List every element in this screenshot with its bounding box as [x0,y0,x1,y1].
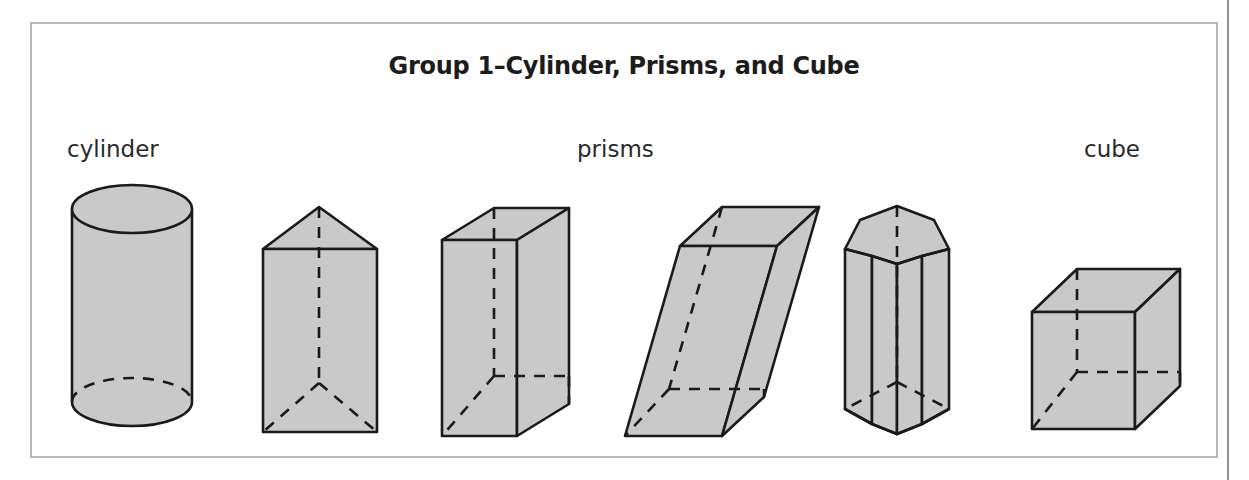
shape-triangular-prism [263,207,377,432]
page-edge-rule [1227,0,1229,480]
shape-cylinder [72,185,192,426]
shape-rectangular-prism [442,208,569,436]
shape-pentagonal-prism [845,206,949,434]
figure-frame: Group 1–Cylinder, Prisms, and Cube cylin… [30,22,1218,458]
figure-page: Group 1–Cylinder, Prisms, and Cube cylin… [0,0,1249,480]
shape-oblique-prism [625,207,819,436]
shapes-canvas [32,24,1220,456]
shape-cube [1032,269,1180,429]
